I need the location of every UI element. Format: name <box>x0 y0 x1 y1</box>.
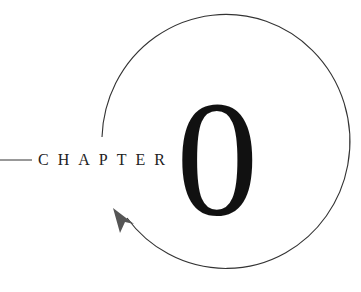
chapter-label: CHAPTER <box>38 151 174 168</box>
chapter-number: 0 <box>176 67 259 250</box>
arrow-head-icon <box>113 208 134 233</box>
chapter-title-graphic: CHAPTER 0 <box>0 0 361 292</box>
